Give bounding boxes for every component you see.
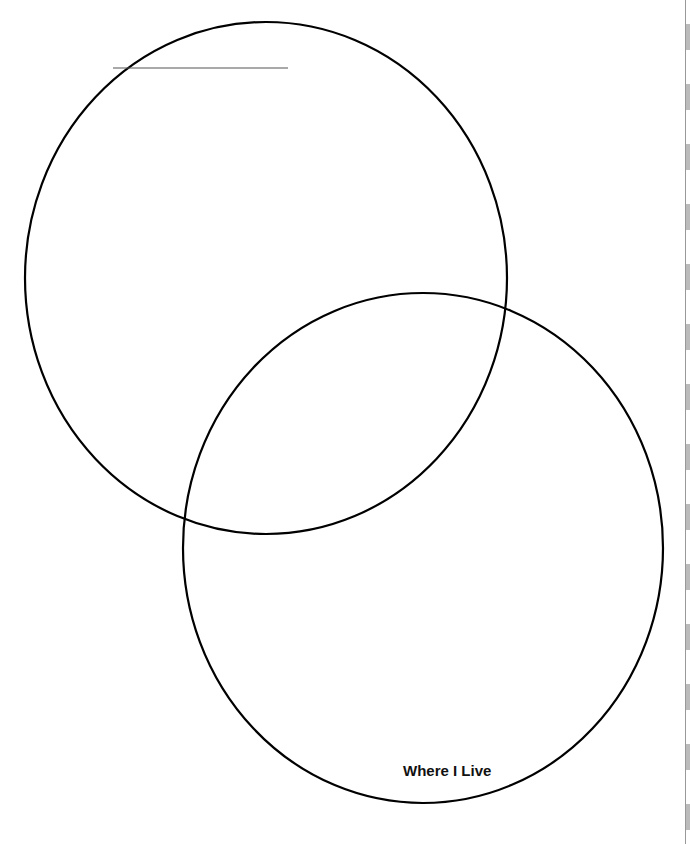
circle-top-left	[25, 22, 507, 534]
circle-bottom-right	[183, 293, 663, 803]
circle-label-where-i-live: Where I Live	[403, 762, 491, 779]
page-edge-strip	[685, 0, 690, 844]
